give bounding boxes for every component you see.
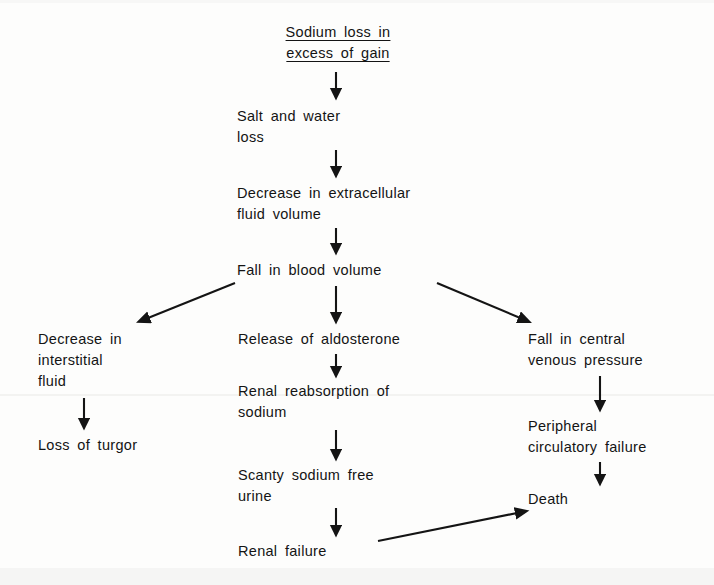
- node-death: Death: [528, 489, 628, 510]
- node-loss-of-turgor: Loss of turgor: [38, 435, 188, 456]
- node-salt-and-water-loss: Salt and water loss: [237, 106, 437, 148]
- flowchart-page: Sodium loss in excess of gain Salt and w…: [0, 0, 714, 585]
- node-sodium-loss: Sodium loss in excess of gain: [238, 22, 438, 64]
- arrow-fall-blood-volume-to-fall-cvp: [437, 283, 525, 320]
- node-fall-in-central-venous-pressure: Fall in central venous pressure: [528, 329, 688, 371]
- node-release-of-aldosterone: Release of aldosterone: [238, 329, 448, 350]
- node-peripheral-circulatory-failure: Peripheral circulatory failure: [528, 416, 698, 458]
- node-scanty-sodium-free-urine: Scanty sodium free urine: [238, 465, 448, 507]
- node-renal-failure: Renal failure: [238, 541, 438, 562]
- node-decrease-in-interstitial-fluid: Decrease in interstitial fluid: [38, 329, 168, 392]
- node-renal-reabsorption-of-sodium: Renal reabsorption of sodium: [238, 381, 448, 423]
- arrow-renal-failure-to-death: [378, 512, 522, 541]
- node-fall-in-blood-volume: Fall in blood volume: [237, 260, 437, 281]
- node-decrease-in-extracellular-fluid-volume: Decrease in extracellular fluid volume: [237, 183, 467, 225]
- arrow-fall-blood-volume-to-decrease-interstitial: [143, 283, 235, 320]
